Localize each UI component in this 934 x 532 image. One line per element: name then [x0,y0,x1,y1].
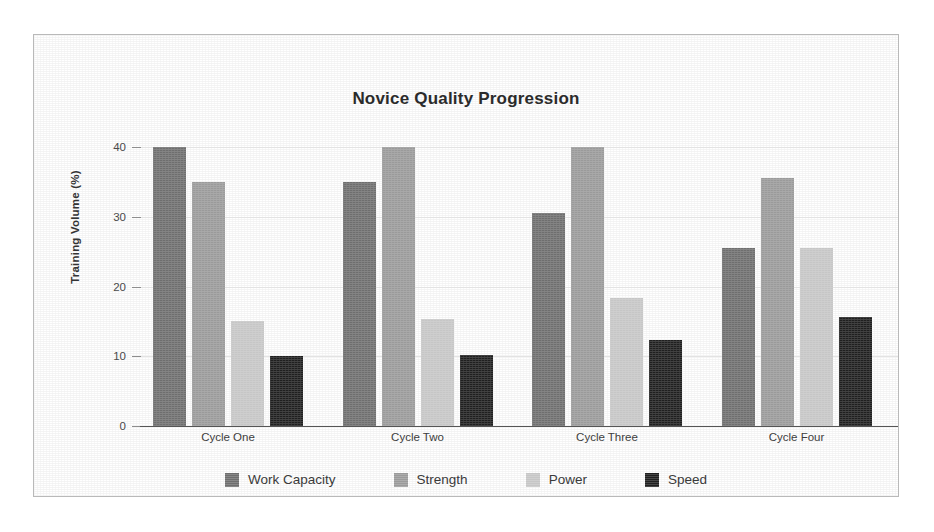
chart-legend: Work CapacityStrengthPowerSpeed [34,472,898,487]
legend-swatch-icon [526,473,540,487]
bar [761,178,794,426]
y-tick-label: 10 [92,350,126,362]
legend-item[interactable]: Speed [645,472,707,487]
bar-group [343,147,493,426]
x-axis-category-labels: Cycle OneCycle TwoCycle ThreeCycle Four [140,431,898,451]
bar [571,147,604,426]
legend-swatch-icon [645,473,659,487]
bar [231,321,264,426]
bar [460,355,493,426]
category-label: Cycle Four [769,431,825,443]
x-axis-line [140,426,898,427]
bar [192,182,225,426]
y-tick-label: 0 [92,420,126,432]
y-tick-label: 40 [92,141,126,153]
y-axis-title: Training Volume (%) [69,132,81,322]
legend-item[interactable]: Work Capacity [225,472,336,487]
legend-label: Power [549,472,587,487]
bar [610,298,643,426]
bars-layer [140,147,898,426]
legend-item[interactable]: Strength [394,472,468,487]
bar [343,182,376,426]
bar [270,356,303,426]
bar [421,319,454,426]
bar-group [153,147,303,426]
bar-group [532,147,682,426]
chart-page-frame: Novice Quality Progression Training Volu… [33,34,899,497]
y-tick-label: 30 [92,211,126,223]
bar [153,147,186,426]
legend-swatch-icon [225,473,239,487]
bar [649,340,682,426]
bar-group [722,147,872,426]
category-label: Cycle Two [391,431,444,443]
bar [722,248,755,426]
bar [839,317,872,426]
legend-label: Speed [668,472,707,487]
legend-swatch-icon [394,473,408,487]
bar [382,147,415,426]
y-axis-ticks: 010203040 [86,147,126,426]
legend-label: Work Capacity [248,472,336,487]
legend-label: Strength [417,472,468,487]
chart-title: Novice Quality Progression [34,89,898,109]
legend-item[interactable]: Power [526,472,587,487]
y-tick-label: 20 [92,281,126,293]
bar [800,248,833,426]
category-label: Cycle Three [576,431,638,443]
category-label: Cycle One [201,431,255,443]
bar [532,213,565,426]
